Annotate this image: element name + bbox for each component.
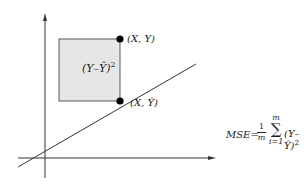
- fraction-denominator: m: [257, 133, 266, 143]
- summation: m ∑ i=1: [269, 113, 283, 146]
- sum-lower-limit: i=1: [269, 137, 283, 146]
- sigma-icon: ∑: [269, 122, 283, 137]
- actual-point: [116, 35, 123, 42]
- x-axis-arrow-icon: [208, 156, 216, 160]
- fraction-numerator: 1: [257, 122, 266, 133]
- mse-fraction: 1 m: [257, 122, 266, 143]
- term-exponent: 2: [295, 139, 299, 147]
- square-exponent: 2: [111, 60, 116, 69]
- mse-term: (Y–Ŷ)2: [284, 128, 306, 151]
- square-label-text: (Y–Ŷ): [82, 62, 111, 75]
- predicted-point-label: (X, Ŷ): [130, 97, 158, 108]
- mse-formula: MSE= 1 m m ∑ i=1 (Y–Ŷ)2: [226, 113, 306, 155]
- square-label: (Y–Ŷ)2: [82, 60, 116, 75]
- predicted-point: [116, 97, 123, 104]
- mse-name: MSE=: [226, 129, 259, 140]
- y-axis-arrow-icon: [43, 13, 47, 21]
- actual-point-label: (X, Y): [127, 33, 155, 44]
